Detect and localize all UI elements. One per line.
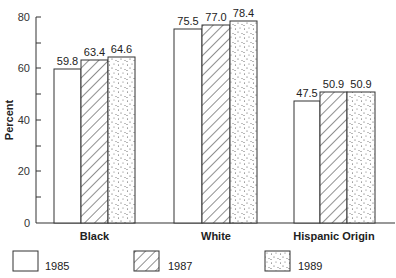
bar-hispanic-1987 <box>320 92 347 223</box>
value-label: 50.9 <box>350 78 371 90</box>
bar-chart: 0 20 40 60 80 Percent 59.8 63.4 64.6 Bla… <box>0 0 396 278</box>
bar-black-1987 <box>81 60 108 223</box>
value-label: 50.9 <box>323 78 344 90</box>
y-tick-0: 0 <box>24 217 30 229</box>
bar-group-hispanic: 47.5 50.9 50.9 Hispanic Origin <box>293 78 375 242</box>
bar-black-1985 <box>54 69 81 223</box>
y-tick-60: 60 <box>18 62 30 74</box>
bar-group-black: 59.8 63.4 64.6 Black <box>54 43 135 242</box>
bar-white-1985 <box>174 29 202 223</box>
value-label: 64.6 <box>111 43 132 55</box>
bar-black-1989 <box>108 57 135 223</box>
category-label-hispanic: Hispanic Origin <box>293 230 375 242</box>
legend-label-1987: 1987 <box>168 260 192 272</box>
bar-hispanic-1985 <box>294 101 320 223</box>
y-tick-80: 80 <box>18 11 30 23</box>
y-axis-title: Percent <box>3 99 15 140</box>
value-label: 59.8 <box>57 55 78 67</box>
y-axis: 0 20 40 60 80 Percent <box>3 11 41 229</box>
y-tick-20: 20 <box>18 165 30 177</box>
y-tick-40: 40 <box>18 114 30 126</box>
bar-group-white: 75.5 77.0 78.4 White <box>174 7 257 242</box>
legend: 1985 1987 1989 <box>13 251 322 272</box>
value-label: 63.4 <box>84 46 105 58</box>
value-label: 77.0 <box>205 11 226 23</box>
value-label: 78.4 <box>233 7 254 19</box>
legend-swatch-1987 <box>134 251 159 271</box>
category-label-black: Black <box>80 230 110 242</box>
value-label: 75.5 <box>177 15 198 27</box>
legend-swatch-1989 <box>265 251 290 271</box>
legend-label-1989: 1989 <box>298 260 322 272</box>
bar-hispanic-1989 <box>347 92 375 223</box>
bar-white-1989 <box>230 21 257 223</box>
value-label: 47.5 <box>296 87 317 99</box>
bar-white-1987 <box>202 25 230 223</box>
legend-swatch-1985 <box>13 251 38 271</box>
category-label-white: White <box>201 230 231 242</box>
legend-label-1985: 1985 <box>45 260 69 272</box>
